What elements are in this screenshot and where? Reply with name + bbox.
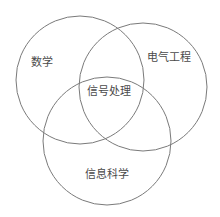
venn-diagram-canvas: 数学 电气工程 信号处理 信息科学 <box>0 0 220 217</box>
label-math: 数学 <box>31 55 53 69</box>
label-electrical-engineering: 电气工程 <box>147 50 191 64</box>
venn-diagram: 数学 电气工程 信号处理 信息科学 <box>0 0 220 217</box>
label-information-science: 信息科学 <box>85 167 129 181</box>
label-signal-processing: 信号处理 <box>87 85 131 98</box>
